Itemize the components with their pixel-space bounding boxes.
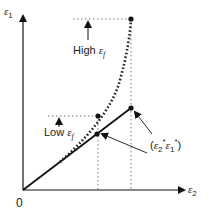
point-low-curve bbox=[95, 113, 100, 118]
y-axis-label: ε1 bbox=[4, 6, 13, 20]
strain-diagram bbox=[0, 0, 208, 212]
callout-arrow-lower bbox=[102, 134, 147, 153]
callout-arrow-upper bbox=[135, 112, 152, 134]
point-line-low bbox=[94, 131, 99, 136]
point-label: (ε2*ε1*) bbox=[150, 138, 181, 154]
point-high bbox=[128, 16, 133, 21]
linear-path bbox=[23, 108, 131, 190]
point-line-end bbox=[128, 105, 133, 110]
low-label: Low εf bbox=[44, 127, 74, 141]
high-label: High εf bbox=[73, 45, 105, 59]
x-axis-label: ε2 bbox=[188, 184, 197, 198]
origin-label: 0 bbox=[16, 197, 23, 209]
